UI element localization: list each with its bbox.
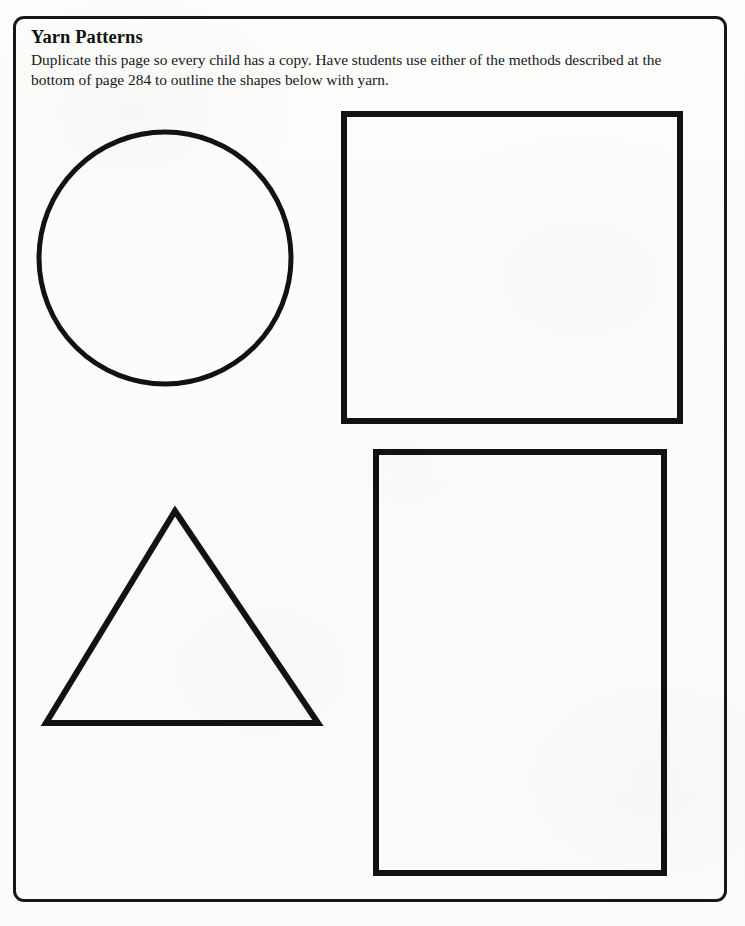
worksheet-page: Yarn Patterns Duplicate this page so eve… xyxy=(0,0,745,926)
page-title: Yarn Patterns xyxy=(31,27,691,49)
instructions-text: Duplicate this page so every child has a… xyxy=(31,50,679,90)
header-block: Yarn Patterns Duplicate this page so eve… xyxy=(31,27,691,90)
page-border xyxy=(13,16,727,902)
